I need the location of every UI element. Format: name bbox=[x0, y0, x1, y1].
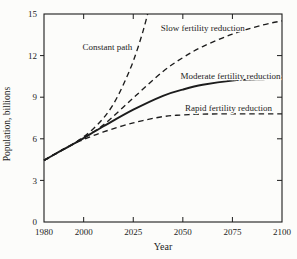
curve-moderate-fertility-reduction bbox=[44, 79, 282, 161]
y-axis-title: Population, billions bbox=[2, 86, 12, 161]
curve-rapid-fertility-reduction bbox=[44, 114, 282, 161]
x-tick-label: 2000 bbox=[75, 227, 94, 237]
y-tick-label: 15 bbox=[28, 9, 38, 19]
y-tick-label: 12 bbox=[28, 51, 37, 61]
population-projection-figure: 19802000202520502075210003691215YearPopu… bbox=[0, 0, 297, 259]
curve-label-moderate-fertility-reduction: Moderate fertility reduction bbox=[180, 71, 280, 81]
y-tick-label: 3 bbox=[33, 176, 38, 186]
x-axis-title: Year bbox=[154, 241, 173, 252]
y-tick-label: 9 bbox=[33, 92, 38, 102]
x-tick-label: 1980 bbox=[35, 227, 54, 237]
curve-label-rapid-fertility-reduction: Rapid fertility reduction bbox=[185, 103, 272, 113]
x-tick-label: 2100 bbox=[273, 227, 292, 237]
axis-ticks bbox=[40, 14, 282, 222]
x-tick-label: 2050 bbox=[174, 227, 193, 237]
curve-constant-path bbox=[44, 0, 151, 160]
plot-border bbox=[44, 14, 282, 222]
curve-label-constant-path: Constant path bbox=[83, 42, 133, 52]
x-tick-label: 2075 bbox=[223, 227, 242, 237]
curve-label-slow-fertility-reduction: Slow fertility reduction bbox=[161, 23, 245, 33]
x-tick-label: 2025 bbox=[124, 227, 143, 237]
y-tick-label: 0 bbox=[33, 217, 38, 227]
y-tick-label: 6 bbox=[33, 134, 38, 144]
population-projection-chart: 19802000202520502075210003691215YearPopu… bbox=[0, 0, 297, 259]
